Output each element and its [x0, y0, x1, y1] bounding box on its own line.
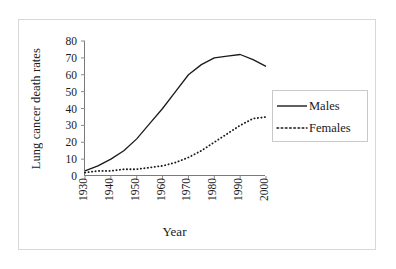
y-tick-label: 50 — [66, 86, 78, 97]
data-series-group — [85, 55, 266, 173]
figure-container: Lung cancer death rates 8070605040302010… — [0, 0, 396, 269]
x-tick-label: 1940 — [104, 178, 115, 201]
x-tick-label: 1980 — [207, 178, 218, 201]
legend-line-swatch-solid — [277, 101, 307, 111]
axis-tick-marks — [81, 41, 266, 180]
y-tick-label: 40 — [66, 103, 78, 114]
y-axis-title: Lung cancer death rates — [28, 36, 44, 182]
x-tick-label: 1990 — [233, 178, 244, 201]
x-axis-title: Year — [84, 224, 265, 240]
x-tick-label: 1930 — [78, 178, 89, 201]
y-tick-label: 20 — [66, 137, 78, 148]
x-tick-label: 1970 — [181, 178, 192, 201]
x-tick-label: 2000 — [259, 178, 270, 201]
y-tick-label: 60 — [66, 69, 78, 80]
x-tick-label: 1960 — [156, 178, 167, 201]
y-tick-label: 80 — [66, 36, 78, 47]
y-axis-tick-labels: 80706050403020100 — [48, 36, 80, 182]
series-line-females — [85, 117, 266, 173]
legend-item-males: Males — [277, 95, 367, 117]
legend-item-females: Females — [277, 117, 367, 139]
x-axis-tick-labels: 19301940195019601970198019902000 — [84, 178, 265, 220]
legend-label-females: Females — [309, 121, 351, 136]
chart-legend: Males Females — [272, 90, 368, 142]
legend-line-swatch-dotted — [277, 123, 307, 133]
y-tick-label: 10 — [66, 154, 78, 165]
plot-svg — [85, 41, 266, 176]
y-tick-label: 70 — [66, 52, 78, 63]
series-line-males — [85, 55, 266, 171]
y-tick-label: 30 — [66, 120, 78, 131]
x-tick-label: 1950 — [130, 178, 141, 201]
legend-label-males: Males — [309, 99, 340, 114]
plot-area — [84, 41, 265, 176]
y-axis-title-text: Lung cancer death rates — [29, 48, 44, 169]
